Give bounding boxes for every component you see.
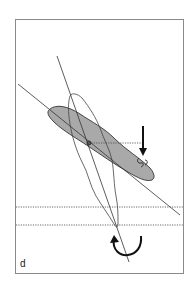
- panel-label: d: [20, 258, 26, 269]
- downward-arrow: [139, 126, 147, 156]
- primary-diagonal-axis: [18, 84, 180, 215]
- diagram-canvas: [0, 0, 190, 281]
- pivot-point: [87, 141, 91, 145]
